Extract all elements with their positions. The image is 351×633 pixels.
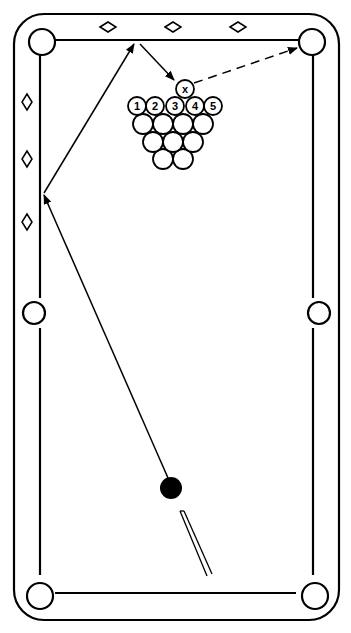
cue-stick	[180, 511, 212, 576]
diamond-icon	[230, 22, 246, 32]
pocket-middle-right	[308, 302, 330, 324]
ball-5-label: 5	[210, 100, 216, 112]
diamond-icon	[100, 22, 116, 32]
object-ball-path	[194, 48, 297, 83]
pocket-top-right	[299, 29, 325, 55]
cue-path-to-ball-x	[140, 44, 174, 80]
diamond-icon	[22, 214, 32, 230]
pocket-top-left	[29, 29, 55, 55]
diamond-icon	[22, 94, 32, 110]
diamond-icon	[22, 151, 32, 167]
pool-table-diagram: x 1 2 3 4 5	[0, 0, 351, 633]
pocket-bottom-left	[27, 583, 53, 609]
ball-x-label: x	[182, 83, 189, 95]
ball-2-label: 2	[152, 100, 158, 112]
pocket-bottom-right	[302, 583, 328, 609]
ball-rack	[128, 80, 222, 169]
pocket-middle-left	[23, 302, 45, 324]
ball-4-label: 4	[192, 100, 199, 112]
ball-1-label: 1	[134, 100, 140, 112]
diamond-icon	[165, 22, 181, 32]
cue-path-to-left-rail	[44, 195, 168, 478]
ball-3-label: 3	[172, 100, 178, 112]
cue-ball	[160, 477, 182, 499]
cue-path-to-top-rail	[44, 44, 134, 193]
